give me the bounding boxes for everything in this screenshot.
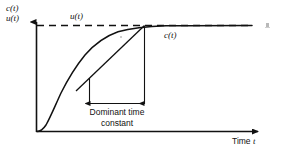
scan-artifact-mark (266, 23, 269, 28)
y-axis-label: c(t) u(t) (6, 3, 19, 23)
x-axis-label-variable: t (253, 136, 255, 146)
x-axis-label: Time t (232, 136, 255, 146)
annotation-line-1: Dominant time (76, 107, 158, 118)
scan-artifact-dot (120, 36, 122, 38)
step-response-figure: c(t) u(t) u(t) c(t) Dominant time consta… (0, 0, 291, 150)
y-axis-label-ut: u(t) (6, 13, 19, 23)
y-axis-label-ct: c(t) (6, 3, 19, 13)
dominant-time-constant-annotation: Dominant time constant (76, 107, 158, 129)
output-signal-label: c(t) (164, 30, 177, 40)
input-signal-label: u(t) (70, 11, 83, 21)
x-axis-label-text: Time (232, 136, 253, 146)
annotation-line-2: constant (76, 118, 158, 129)
